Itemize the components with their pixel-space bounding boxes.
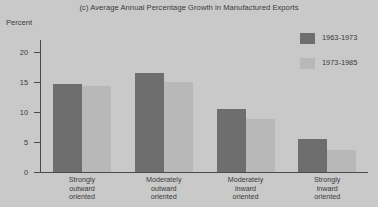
x-category-label: Moderately inward oriented: [206, 176, 286, 202]
chart-legend: 1963-1973 1973-1985: [300, 32, 378, 82]
chart-title: (c) Average Annual Percentage Growth in …: [0, 3, 378, 12]
x-axis-line: [40, 172, 368, 173]
chart-figure: (c) Average Annual Percentage Growth in …: [0, 0, 378, 207]
bar-2-2: [164, 82, 193, 172]
bar-3-1: [217, 109, 246, 172]
y-tick-label: 10: [0, 108, 28, 117]
bar-1-2: [82, 86, 111, 172]
y-tick-mark: [34, 142, 40, 143]
bar-4-1: [298, 139, 327, 172]
legend-swatch-icon-1973-1985: [300, 58, 315, 69]
bar-4-2: [327, 150, 356, 172]
x-category-label: Strongly outward oriented: [42, 176, 122, 202]
y-tick-mark: [34, 82, 40, 83]
bar-3-2: [246, 119, 275, 172]
bar-2-1: [135, 73, 164, 172]
y-axis-label: Percent: [6, 18, 32, 27]
legend-item-1963-1973: 1963-1973: [300, 32, 378, 45]
y-tick-label: 15: [0, 78, 28, 87]
y-tick-mark: [34, 52, 40, 53]
y-tick-mark: [34, 112, 40, 113]
bar-1-1: [53, 84, 82, 172]
y-tick-mark: [34, 172, 40, 173]
x-category-label: Strongly inward oriented: [287, 176, 367, 202]
y-tick-label: 0: [0, 168, 28, 177]
legend-label-1973-1985: 1973-1985: [322, 58, 357, 67]
y-tick-label: 5: [0, 138, 28, 147]
legend-item-1973-1985: 1973-1985: [300, 57, 378, 70]
x-category-label: Moderately outward oriented: [124, 176, 204, 202]
legend-label-1963-1973: 1963-1973: [322, 33, 357, 42]
y-tick-label: 20: [0, 48, 28, 57]
legend-swatch-icon-1963-1973: [300, 33, 315, 44]
